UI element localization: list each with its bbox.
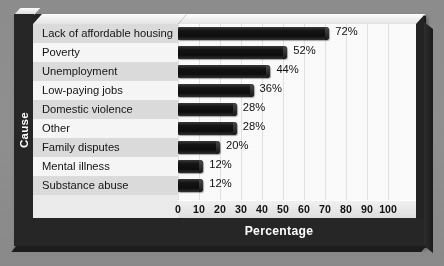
category-label: Low-paying jobs: [33, 81, 178, 100]
x-tick-label: 70: [319, 203, 331, 215]
x-tick-label: 10: [193, 203, 205, 215]
category-label: Unemployment: [33, 62, 178, 81]
bar-value-label: 52%: [293, 44, 315, 56]
x-tick-label: 20: [214, 203, 226, 215]
bar-value-label: 12%: [209, 158, 231, 170]
bar-end-cap: [216, 141, 220, 154]
bar-row: 28%: [178, 119, 416, 138]
bar-end-cap: [250, 84, 254, 97]
bar-row: 36%: [178, 81, 416, 100]
bar: [178, 84, 254, 97]
x-tick-label: 50: [277, 203, 289, 215]
bar-end-cap: [199, 179, 203, 192]
bar-value-label: 44%: [276, 63, 298, 75]
bar-end-cap: [266, 65, 270, 78]
x-tick-label: 90: [361, 203, 373, 215]
bar-value-label: 28%: [243, 101, 265, 113]
frame-right-bevel: [424, 22, 433, 253]
bar-end-cap: [233, 103, 237, 116]
category-label: Domestic violence: [33, 100, 178, 119]
bar: [178, 141, 220, 154]
bar-row: 20%: [178, 138, 416, 157]
plot-area: 72%52%44%36%28%28%20%12%12%: [178, 24, 416, 200]
bar-value-label: 20%: [226, 139, 248, 151]
bar-row: 52%: [178, 43, 416, 62]
chart-scene: Cause Lack of affordable housingPovertyU…: [0, 0, 444, 266]
frame-bottom-bevel: [11, 246, 426, 252]
bar-row: 72%: [178, 24, 416, 43]
x-tick-label: 80: [340, 203, 352, 215]
category-column-filler: [33, 195, 178, 218]
bar-row: 12%: [178, 176, 416, 195]
bar-row: 12%: [178, 157, 416, 176]
category-label: Poverty: [33, 43, 178, 62]
bar-value-label: 72%: [335, 25, 357, 37]
y-axis-title-panel: Cause: [14, 14, 34, 246]
x-tick-label: 60: [298, 203, 310, 215]
bar-row: 44%: [178, 62, 416, 81]
bar: [178, 65, 270, 78]
x-axis-title-panel: Percentage: [14, 218, 424, 246]
category-label: Substance abuse: [33, 176, 178, 195]
category-label: Mental illness: [33, 157, 178, 176]
bar: [178, 122, 237, 135]
bar-end-cap: [283, 46, 287, 59]
bar-row: 28%: [178, 100, 416, 119]
x-axis-title: Percentage: [14, 224, 424, 238]
bar: [178, 179, 203, 192]
x-tick-label: 0: [175, 203, 181, 215]
bar-value-label: 36%: [260, 82, 282, 94]
bar-end-cap: [233, 122, 237, 135]
y-axis-title: Cause: [18, 112, 30, 148]
bar-value-label: 12%: [209, 177, 231, 189]
category-column-top-bevel: [33, 14, 187, 24]
bar-end-cap: [199, 160, 203, 173]
bar: [178, 46, 287, 59]
bar-value-label: 28%: [243, 120, 265, 132]
bar: [178, 160, 203, 173]
x-tick-label: 40: [256, 203, 268, 215]
plot-top-bevel: [178, 14, 425, 24]
x-tick-label: 100: [379, 203, 397, 215]
category-label: Lack of affordable housing: [33, 24, 178, 43]
category-label: Other: [33, 119, 178, 138]
category-axis-labels: Lack of affordable housingPovertyUnemplo…: [33, 24, 179, 218]
x-tick-label: 30: [235, 203, 247, 215]
bar: [178, 103, 237, 116]
bar-end-cap: [325, 27, 329, 40]
category-label: Family disputes: [33, 138, 178, 157]
bar: [178, 27, 329, 40]
x-axis-ticks: 0102030405060708090100: [178, 200, 416, 219]
